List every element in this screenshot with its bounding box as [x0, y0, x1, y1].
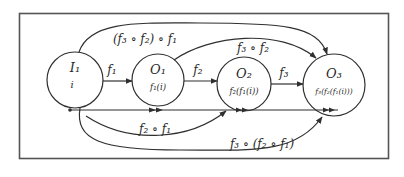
edge-label: f₃ ∘ (f₂ ∘ f₁) [229, 137, 294, 151]
edge-label: (f₃ ∘ f₂) ∘ f₁ [113, 32, 177, 46]
node-value: f₂(f₁(i)) [228, 86, 258, 96]
edge-label: f₂ [192, 63, 202, 77]
edge-f3: f₃ [271, 66, 303, 84]
edge-label: f₁ [106, 63, 116, 77]
edge-f1: f₁ [103, 63, 132, 81]
node-O1: O₁ f₁(i) [132, 54, 184, 106]
edge-label: f₂ ∘ f₁ [138, 122, 171, 136]
node-title: O₁ [150, 62, 166, 77]
edge-f2-compose-f1: f₂ ∘ f₁ [86, 111, 226, 136]
node-value: i [70, 79, 73, 90]
node-value: f₃(f₂(f₁(i))) [314, 87, 352, 96]
diagram-frame [20, 14, 389, 159]
node-title: I₁ [69, 60, 80, 75]
node-circle [303, 54, 365, 116]
edge-label: f₃ [278, 66, 288, 80]
edge-label: f₃ ∘ f₂ [236, 41, 269, 55]
element-path [68, 108, 338, 113]
edge-f2: f₂ [184, 63, 217, 81]
node-value: f₁(i) [149, 82, 166, 92]
composition-diagram: I₁ i O₁ f₁(i) O₂ f₂(f₁(i)) O₃ f₃(f₂(f₁(i… [0, 0, 404, 177]
arrowhead-icon [149, 108, 163, 113]
arrowhead-icon [236, 108, 248, 113]
arrowhead-icon [323, 108, 335, 113]
node-title: O₃ [326, 66, 342, 81]
node-O2: O₂ f₂(f₁(i)) [217, 57, 271, 111]
node-O3: O₃ f₃(f₂(f₁(i))) [303, 54, 365, 116]
node-title: O₂ [236, 66, 252, 81]
node-I1: I₁ i [47, 52, 103, 108]
edge-bottom-composition: f₃ ∘ (f₂ ∘ f₁) [79, 108, 322, 151]
edge-top-composition: (f₃ ∘ f₂) ∘ f₁ [79, 23, 327, 54]
